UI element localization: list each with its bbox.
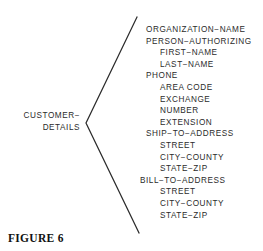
field-list: ORGANIZATION−NAMEPERSON−AUTHORIZINGFIRST… xyxy=(0,24,263,221)
field-row: STATE−ZIP xyxy=(0,210,263,222)
figure-canvas: CUSTOMER− DETAILS ORGANIZATION−NAMEPERSO… xyxy=(0,0,263,251)
field-row: PHONE xyxy=(0,70,263,82)
field-row: BILL−TO−ADDRESS xyxy=(0,175,263,187)
field-row: AREA CODE xyxy=(0,82,263,94)
field-row: FIRST−NAME xyxy=(0,47,263,59)
field-row: EXTENSION xyxy=(0,117,263,129)
field-row: PERSON−AUTHORIZING xyxy=(0,36,263,48)
field-row: LAST−NAME xyxy=(0,59,263,71)
field-row: STREET xyxy=(0,186,263,198)
field-row: STATE−ZIP xyxy=(0,163,263,175)
figure-caption: FIGURE 6 xyxy=(8,232,64,244)
field-row: CITY−COUNTY xyxy=(0,152,263,164)
field-row: STREET xyxy=(0,140,263,152)
field-row: CITY−COUNTY xyxy=(0,198,263,210)
field-row: NUMBER xyxy=(0,105,263,117)
field-row: ORGANIZATION−NAME xyxy=(0,24,263,36)
field-row: SHIP−TO−ADDRESS xyxy=(0,128,263,140)
field-row: EXCHANGE xyxy=(0,94,263,106)
